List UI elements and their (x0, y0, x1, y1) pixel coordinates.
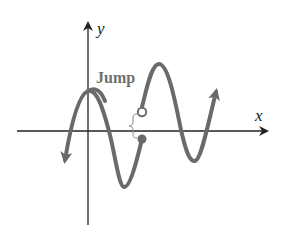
open-circle-endpoint (138, 108, 146, 116)
filled-dot-endpoint (138, 135, 147, 144)
curve-right-piece (142, 64, 216, 161)
jump-discontinuity-diagram: x y Jump (0, 0, 281, 237)
jump-label: Jump (96, 69, 135, 87)
curve-left-piece-main (88, 91, 142, 187)
x-axis-label: x (254, 106, 263, 125)
jump-brace (129, 114, 137, 138)
y-axis-label: y (95, 19, 105, 38)
